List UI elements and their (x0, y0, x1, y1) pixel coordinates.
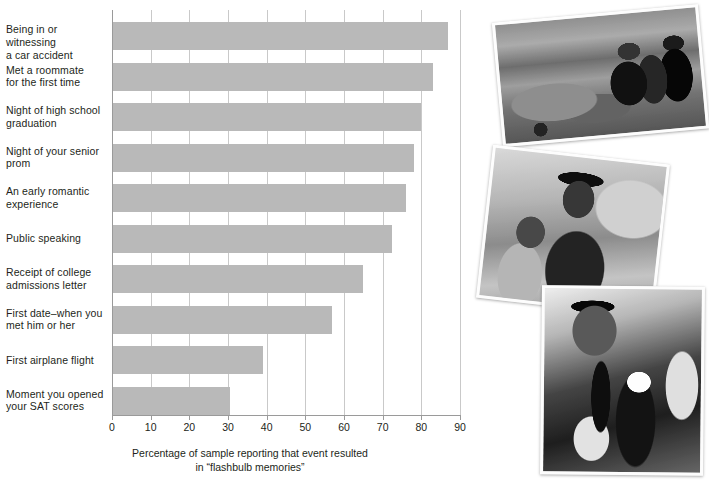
x-tick-label: 60 (329, 421, 359, 433)
x-tick-label: 20 (174, 421, 204, 433)
category-label-line: Moment you opened (6, 388, 110, 401)
category-label-line: a car accident (6, 49, 110, 62)
x-tick-label: 50 (290, 421, 320, 433)
x-tick-80 (421, 415, 422, 420)
bar (112, 387, 230, 415)
bar (112, 22, 448, 50)
x-tick-0 (112, 415, 113, 420)
category-label-line: for the first time (6, 76, 110, 89)
x-axis-caption-line2: in “flashbulb memories” (70, 461, 430, 475)
category-label: First airplane flight (6, 354, 110, 367)
x-tick-label: 40 (252, 421, 282, 433)
category-label-line: First airplane flight (6, 354, 110, 367)
bar (112, 184, 406, 212)
x-tick-90 (460, 415, 461, 420)
x-axis-caption: Percentage of sample reporting that even… (70, 447, 430, 474)
category-label: Receipt of collegeadmissions letter (6, 266, 110, 291)
category-label-line: Public speaking (6, 232, 110, 245)
x-tick-70 (383, 415, 384, 420)
category-label: Night of your seniorprom (6, 145, 110, 170)
category-label-line: Being in or witnessing (6, 23, 110, 48)
x-tick-label: 10 (136, 421, 166, 433)
x-tick-label: 80 (406, 421, 436, 433)
x-tick-label: 0 (97, 421, 127, 433)
category-label: Night of high schoolgraduation (6, 104, 110, 129)
x-tick-30 (228, 415, 229, 420)
category-label-line: graduation (6, 117, 110, 130)
category-label: First date–when youmet him or her (6, 307, 110, 332)
x-tick-60 (344, 415, 345, 420)
x-tick-20 (189, 415, 190, 420)
category-label-line: prom (6, 157, 110, 170)
category-axis-labels: Being in or witnessinga car accidentMet … (6, 10, 110, 415)
category-label-line: Met a roommate (6, 64, 110, 77)
prom-photo (540, 285, 705, 476)
bar (112, 103, 421, 131)
x-tick-50 (305, 415, 306, 420)
x-axis-line (112, 415, 461, 416)
prom-photo-image (543, 288, 702, 473)
x-tick-label: 70 (368, 421, 398, 433)
category-label: Being in or witnessinga car accident (6, 23, 110, 61)
category-label-line: experience (6, 198, 110, 211)
bar (112, 225, 392, 253)
x-tick-label: 30 (213, 421, 243, 433)
category-label-line: First date–when you (6, 307, 110, 320)
car-accident-photo (492, 4, 709, 147)
category-label-line: your SAT scores (6, 400, 110, 413)
car-accident-photo-image (495, 7, 706, 144)
category-label-line: Receipt of college (6, 266, 110, 279)
category-label-line: Night of high school (6, 104, 110, 117)
category-label-line: met him or her (6, 319, 110, 332)
flashbulb-memories-bar-chart: Being in or witnessinga car accidentMet … (0, 0, 480, 482)
category-label-line: An early romantic (6, 185, 110, 198)
category-label: Public speaking (6, 232, 110, 245)
photo-collage (470, 0, 701, 482)
x-axis-caption-line1: Percentage of sample reporting that even… (70, 447, 430, 461)
y-axis-line (112, 10, 113, 416)
bar (112, 63, 433, 91)
bar (112, 346, 263, 374)
gridline-90 (460, 10, 461, 415)
bar (112, 306, 332, 334)
category-label: Moment you openedyour SAT scores (6, 388, 110, 413)
category-label: An early romanticexperience (6, 185, 110, 210)
category-label-line: Night of your senior (6, 145, 110, 158)
category-label: Met a roommatefor the first time (6, 64, 110, 89)
x-tick-10 (151, 415, 152, 420)
x-tick-40 (267, 415, 268, 420)
plot-area (112, 10, 460, 415)
category-label-line: admissions letter (6, 279, 110, 292)
bar (112, 144, 414, 172)
bar (112, 265, 363, 293)
